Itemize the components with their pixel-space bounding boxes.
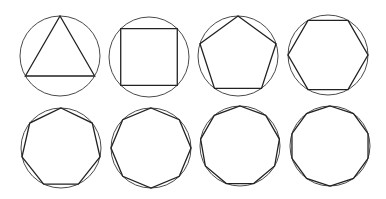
pentagon-figure	[198, 16, 278, 96]
circumscribed-circle	[20, 16, 100, 96]
triangle-figure	[20, 16, 100, 96]
circumscribed-circle	[290, 106, 370, 186]
square-polygon	[121, 29, 178, 86]
circumscribed-circle	[198, 16, 278, 96]
circumscribed-circle	[288, 15, 368, 95]
octagon-polygon	[111, 108, 191, 188]
circumscribed-circle	[21, 108, 101, 188]
nonagon-polygon	[201, 106, 280, 184]
pentagon-polygon	[200, 16, 276, 88]
hexagon-polygon	[288, 20, 368, 89]
circumscribed-circle	[200, 106, 280, 186]
figures-group	[20, 15, 370, 188]
heptagon-figure	[21, 108, 101, 188]
triangle-polygon	[25, 16, 94, 76]
hexagon-figure	[288, 15, 368, 95]
decagon-figure	[290, 106, 370, 186]
decagon-polygon	[292, 106, 368, 186]
octagon-figure	[111, 108, 191, 188]
square-figure	[109, 17, 189, 97]
nonagon-figure	[200, 106, 280, 186]
polygon-diagram	[0, 0, 386, 199]
